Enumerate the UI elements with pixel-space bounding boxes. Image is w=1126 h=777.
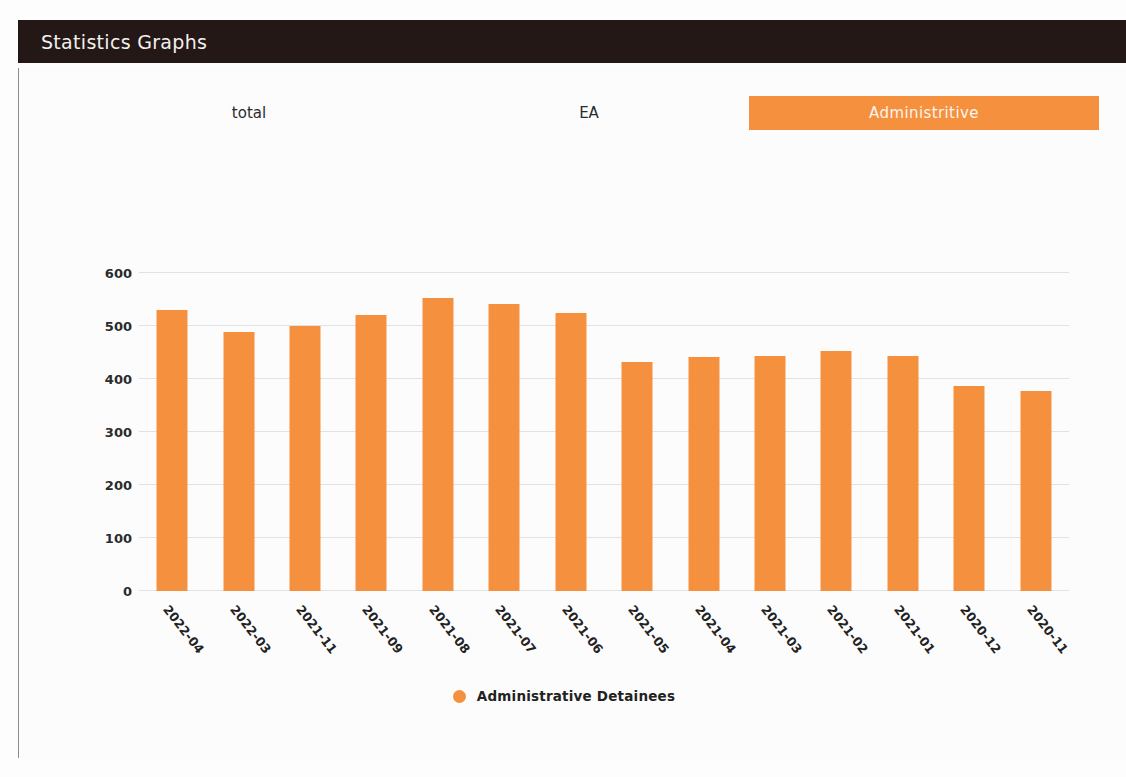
bar[interactable] (821, 351, 852, 591)
x-axis-tick-label: 2022-03 (227, 602, 274, 656)
bar-slot (139, 273, 205, 591)
bar[interactable] (422, 298, 453, 591)
x-label-slot: 2022-04 (139, 592, 205, 672)
x-label-slot: 2020-11 (1003, 592, 1069, 672)
legend-marker-icon (453, 690, 466, 703)
x-axis-tick-label: 2021-11 (293, 602, 340, 656)
y-axis-tick-label: 400 (82, 372, 132, 387)
bar-slot (604, 273, 670, 591)
x-axis-tick-label: 2021-03 (758, 602, 805, 656)
legend-label: Administrative Detainees (477, 688, 675, 704)
y-axis-tick-label: 0 (82, 584, 132, 599)
bar-slot (405, 273, 471, 591)
x-label-slot: 2021-09 (338, 592, 404, 672)
y-axis-tick-label: 300 (82, 425, 132, 440)
x-label-slot: 2021-02 (803, 592, 869, 672)
bar-slot (272, 273, 338, 591)
bar[interactable] (1020, 391, 1051, 591)
x-label-slot: 2020-12 (936, 592, 1002, 672)
bar-slot (538, 273, 604, 591)
x-axis-labels: 2022-042022-032021-112021-092021-082021-… (139, 592, 1069, 672)
bar[interactable] (622, 362, 653, 591)
bar[interactable] (688, 357, 719, 591)
bar[interactable] (555, 313, 586, 591)
x-label-slot: 2022-03 (205, 592, 271, 672)
bar-slot (338, 273, 404, 591)
tab-ea-label: EA (579, 104, 599, 122)
app-header: Statistics Graphs (18, 20, 1126, 63)
chart-legend: Administrative Detainees (19, 688, 1109, 704)
bar[interactable] (954, 386, 985, 591)
statistics-graphs-page: Statistics Graphs total EA Administritiv… (0, 0, 1126, 777)
x-axis-tick-label: 2020-11 (1024, 602, 1071, 656)
x-axis-tick-label: 2022-04 (160, 602, 207, 656)
x-axis-tick-label: 2021-06 (559, 602, 606, 656)
x-label-slot: 2021-03 (737, 592, 803, 672)
x-axis-tick-label: 2021-01 (891, 602, 938, 656)
plot-area (139, 273, 1069, 591)
y-axis-tick-label: 500 (82, 319, 132, 334)
bar-slot (803, 273, 869, 591)
tab-ea[interactable]: EA (509, 96, 669, 130)
x-axis-tick-label: 2021-05 (625, 602, 672, 656)
bar[interactable] (887, 356, 918, 591)
bar[interactable] (223, 332, 254, 591)
y-axis-tick-label: 200 (82, 478, 132, 493)
tab-total-label: total (232, 104, 266, 122)
bar-slot (737, 273, 803, 591)
bar[interactable] (290, 326, 321, 591)
tab-administritive[interactable]: Administritive (749, 96, 1099, 130)
x-axis-tick-label: 2020-12 (958, 602, 1005, 656)
bar-slot (1003, 273, 1069, 591)
tab-total[interactable]: total (159, 96, 339, 130)
bar-chart: 0100200300400500600 2022-042022-032021-1… (19, 168, 1109, 728)
bar-slot (670, 273, 736, 591)
x-label-slot: 2021-08 (405, 592, 471, 672)
x-axis-tick-label: 2021-04 (692, 602, 739, 656)
x-axis-tick-label: 2021-02 (825, 602, 872, 656)
bar-slot (205, 273, 271, 591)
bar-slot (471, 273, 537, 591)
tab-administritive-label: Administritive (869, 104, 979, 122)
y-axis-tick-label: 600 (82, 266, 132, 281)
page-title: Statistics Graphs (18, 31, 207, 53)
content-panel: total EA Administritive 0100200300400500… (18, 68, 1126, 758)
bar-slot (936, 273, 1002, 591)
x-label-slot: 2021-05 (604, 592, 670, 672)
y-axis-tick-label: 100 (82, 531, 132, 546)
x-label-slot: 2021-04 (670, 592, 736, 672)
bar[interactable] (755, 356, 786, 591)
x-label-slot: 2021-06 (538, 592, 604, 672)
x-axis-tick-label: 2021-08 (426, 602, 473, 656)
x-label-slot: 2021-11 (272, 592, 338, 672)
bar[interactable] (489, 304, 520, 591)
y-axis: 0100200300400500600 (74, 273, 132, 591)
bar-slot (870, 273, 936, 591)
x-axis-tick-label: 2021-07 (493, 602, 540, 656)
tab-strip: total EA Administritive (19, 96, 1099, 130)
bar[interactable] (157, 310, 188, 591)
x-label-slot: 2021-01 (870, 592, 936, 672)
x-label-slot: 2021-07 (471, 592, 537, 672)
x-axis-tick-label: 2021-09 (360, 602, 407, 656)
bar[interactable] (356, 315, 387, 591)
